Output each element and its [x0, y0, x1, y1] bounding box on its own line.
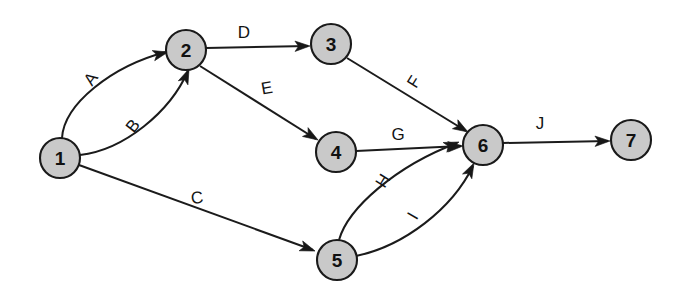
network-diagram-canvas: ABCDEFGHIJ 1234567 [0, 0, 683, 304]
node-label-2: 2 [181, 40, 192, 61]
edge-label-D: D [238, 23, 250, 42]
edge-label-J: J [536, 114, 545, 133]
node-2[interactable]: 2 [166, 30, 206, 70]
node-4[interactable]: 4 [316, 132, 356, 172]
node-3[interactable]: 3 [311, 24, 351, 64]
node-label-1: 1 [55, 148, 66, 169]
node-6[interactable]: 6 [463, 125, 503, 165]
node-7[interactable]: 7 [611, 120, 651, 160]
edge-label-C: C [190, 188, 205, 209]
edge-label-G: G [391, 125, 404, 144]
node-label-3: 3 [326, 34, 337, 55]
node-1[interactable]: 1 [40, 138, 80, 178]
node-label-6: 6 [478, 135, 489, 156]
node-label-5: 5 [332, 250, 343, 271]
node-5[interactable]: 5 [317, 240, 357, 280]
node-label-7: 7 [626, 130, 637, 151]
node-label-4: 4 [331, 142, 342, 163]
directed-graph-svg: ABCDEFGHIJ 1234567 [0, 0, 683, 304]
